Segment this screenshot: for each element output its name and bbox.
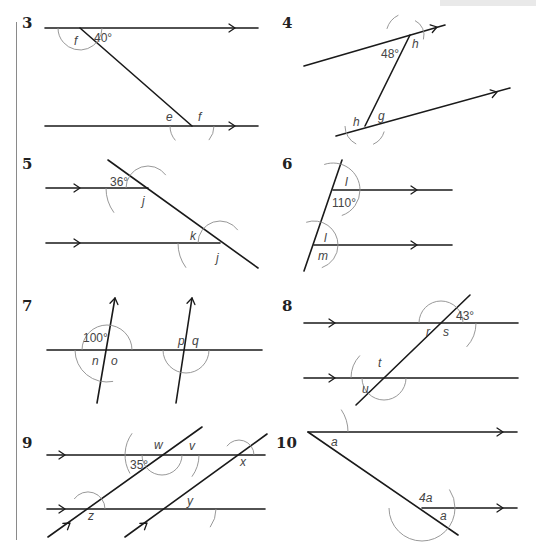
diagram-q7: 100°nopq: [47, 297, 262, 403]
angle-arc: [467, 323, 476, 347]
angle-arc: [210, 509, 216, 527]
angle-label: s: [443, 325, 449, 339]
angle-label: n: [92, 354, 99, 368]
line-segment: [48, 427, 202, 537]
angle-label: 40°: [94, 31, 112, 45]
diagram-q4: 48°hhg: [304, 15, 510, 144]
line-segment: [125, 434, 267, 537]
angle-label: a: [331, 435, 338, 449]
angle-label: f: [198, 110, 203, 124]
angle-label: l: [324, 231, 327, 245]
angle-label: v: [189, 439, 196, 453]
angle-label: f: [74, 34, 79, 48]
angle-label: 43°: [456, 309, 474, 323]
angle-arc: [373, 132, 384, 145]
diagram-q3: f40°ef: [45, 24, 258, 140]
angle-label: 110°: [332, 196, 356, 210]
angle-label: 100°: [83, 331, 108, 345]
line-segment: [108, 160, 258, 268]
angle-label: a: [440, 509, 447, 523]
angle-arc: [351, 356, 360, 379]
angle-label: 36°: [110, 175, 128, 189]
angle-arc: [324, 163, 360, 190]
line-segment: [356, 295, 470, 405]
diagram-q10: a4aa: [308, 410, 517, 541]
angle-label: t: [378, 356, 382, 370]
angle-arc: [163, 350, 209, 373]
angle-arc: [170, 126, 175, 140]
angle-label: e: [166, 110, 173, 124]
angle-label: w: [154, 438, 164, 452]
angle-label: l: [345, 175, 348, 189]
diagram-q8: 43°rstu: [304, 295, 518, 405]
parallel-lines-diagrams: f40°ef48°hhg36°jkjl110°lm100°nopq43°rstu…: [0, 0, 536, 557]
angle-label: g: [378, 109, 385, 123]
angle-label: j: [214, 251, 219, 265]
angle-label: r: [426, 325, 431, 339]
diagram-q5: 36°jkj: [46, 160, 258, 268]
angle-arc: [58, 28, 63, 42]
diagram-q9: wv35°xyz: [47, 427, 267, 537]
diagram-q6: l110°lm: [304, 160, 452, 271]
angle-arc: [178, 243, 186, 268]
angle-arc: [387, 15, 399, 29]
line-segment: [336, 88, 510, 136]
angle-label: u: [362, 382, 369, 396]
angle-label: x: [239, 455, 247, 469]
angle-label: o: [111, 354, 118, 368]
angle-arc: [192, 455, 199, 477]
angle-label: h: [353, 115, 360, 129]
angle-arc: [106, 188, 114, 213]
angle-label: h: [412, 37, 419, 51]
angle-label: y: [186, 494, 194, 508]
angle-arc: [209, 126, 214, 140]
angle-label: z: [87, 509, 94, 523]
angle-arc: [306, 221, 338, 245]
exercise-page: 3 4 5 6 7 8 9 10 f40°ef48°hhg36°jkjl110°…: [0, 0, 536, 557]
angle-label: 35°: [130, 458, 148, 472]
angle-label: 4a: [419, 491, 433, 505]
angle-label: q: [192, 334, 199, 348]
angle-label: m: [318, 249, 328, 263]
angle-label: j: [140, 194, 145, 208]
angle-arc: [341, 410, 348, 432]
angle-label: k: [190, 229, 197, 243]
angle-arc: [449, 490, 455, 509]
angle-label: p: [177, 334, 185, 348]
angle-label: 48°: [381, 47, 399, 61]
